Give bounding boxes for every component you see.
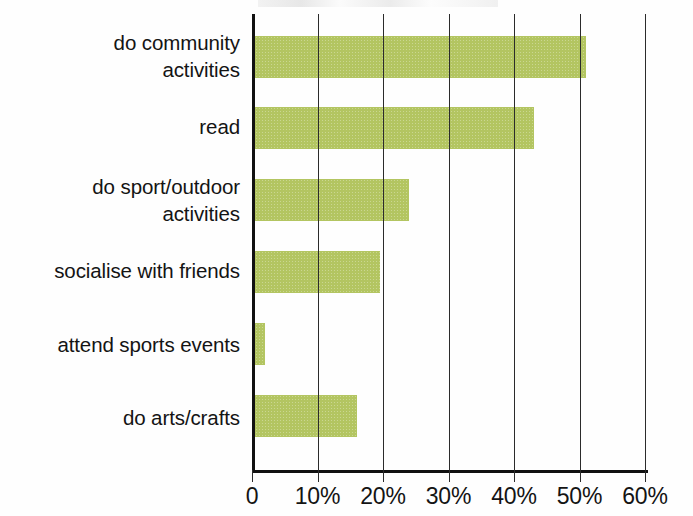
category-label-do-arts-crafts: do arts/crafts	[2, 404, 240, 431]
x-tick-50	[580, 470, 581, 482]
gridline-40	[514, 14, 515, 472]
x-tick-0	[252, 470, 253, 482]
category-label-line1: do community	[2, 29, 240, 56]
category-label-line1: attend sports events	[2, 331, 240, 358]
category-label-do-sport-outdoor-activities: do sport/outdoor activities	[2, 173, 240, 227]
bar-read	[252, 107, 534, 149]
x-tick-label-30: 30%	[426, 482, 471, 510]
gridline-20	[383, 14, 384, 472]
category-label-column: do community activities read do sport/ou…	[0, 0, 240, 516]
category-label-do-community-activities: do community activities	[2, 29, 240, 83]
category-label-line1: read	[2, 113, 240, 140]
category-label-line2: activities	[2, 200, 240, 227]
category-label-line1: do arts/crafts	[2, 404, 240, 431]
bar-do-sport-outdoor-activities	[252, 179, 409, 221]
x-tick-10	[318, 470, 319, 482]
x-tick-20	[383, 470, 384, 482]
gridline-50	[580, 14, 581, 472]
category-label-line1: do sport/outdoor	[2, 173, 240, 200]
x-tick-label-40: 40%	[491, 482, 536, 510]
category-label-line1: socialise with friends	[2, 257, 240, 284]
gridline-10	[318, 14, 319, 472]
x-tick-40	[514, 470, 515, 482]
x-axis-line	[252, 470, 648, 473]
bar-chart: do community activities read do sport/ou…	[0, 0, 693, 516]
x-tick-label-50: 50%	[557, 482, 602, 510]
x-tick-label-0: 0	[246, 482, 259, 510]
x-tick-label-60: 60%	[622, 482, 667, 510]
x-tick-60	[645, 470, 646, 482]
y-axis-line	[252, 14, 255, 472]
gridline-30	[449, 14, 450, 472]
category-label-read: read	[2, 113, 240, 140]
x-tick-label-10: 10%	[295, 482, 340, 510]
bar-do-community-activities	[252, 36, 586, 78]
x-tick-label-20: 20%	[360, 482, 405, 510]
category-label-line2: activities	[2, 56, 240, 83]
bar-socialise-with-friends	[252, 251, 380, 293]
gridline-60	[645, 14, 646, 472]
category-label-attend-sports-events: attend sports events	[2, 331, 240, 358]
plot-area	[252, 14, 645, 472]
bar-do-arts-crafts	[252, 395, 357, 437]
scan-artifact	[258, 0, 498, 7]
category-label-socialise-with-friends: socialise with friends	[2, 257, 240, 284]
x-tick-30	[449, 470, 450, 482]
